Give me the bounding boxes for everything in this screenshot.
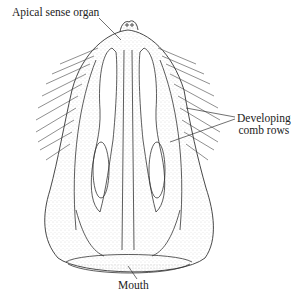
- body-outline: [45, 21, 214, 272]
- developing-comb-rows-label: Developing comb rows: [237, 112, 291, 136]
- apical-sense-organ-label: Apical sense organ: [12, 6, 99, 18]
- comb-label-line-2: comb rows: [237, 124, 291, 136]
- mouth-label: Mouth: [118, 279, 149, 291]
- ctenophore-larva-illustration: [0, 0, 298, 294]
- comb-label-line-1: Developing: [237, 112, 291, 124]
